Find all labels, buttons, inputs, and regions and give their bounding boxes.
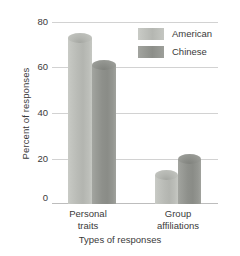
bar-group-affiliations-chinese (178, 154, 201, 204)
x-tick-line1: Personal (69, 208, 107, 219)
bar-chart: Percent of responses 80 60 40 20 0 (0, 0, 240, 256)
legend-swatch-icon-american (138, 28, 164, 40)
bar-body (68, 38, 92, 204)
legend-item-chinese: Chinese (138, 44, 212, 59)
y-tick-label-80: 80 (18, 17, 48, 27)
legend-label-american: American (172, 28, 212, 39)
x-tick-line1: Group (165, 208, 191, 219)
bar-personal-traits-chinese (92, 60, 116, 204)
y-tick-label-60: 60 (18, 62, 48, 72)
x-tick-label-personal-traits: Personal traits (58, 208, 118, 231)
y-tick-label-40: 40 (18, 108, 48, 118)
bar-body (178, 159, 201, 204)
legend: American Chinese (138, 26, 212, 62)
legend-label-chinese: Chinese (172, 46, 207, 57)
bar-body (92, 65, 116, 204)
bar-cap (68, 33, 92, 43)
bar-cap (92, 60, 116, 70)
x-tick-line2: traits (58, 220, 118, 232)
y-tick-label-0: 0 (18, 193, 48, 203)
x-tick-label-group-affiliations: Group affiliations (145, 208, 211, 231)
y-tick-label-20: 20 (18, 154, 48, 164)
bar-cap (155, 170, 178, 180)
x-tick-line2: affiliations (145, 220, 211, 232)
legend-item-american: American (138, 26, 212, 41)
bar-personal-traits-american (68, 33, 92, 204)
bar-group-affiliations-american (155, 170, 178, 204)
bar-cap (178, 154, 201, 164)
x-axis-title: Types of responses (0, 234, 240, 245)
legend-swatch-icon-chinese (138, 46, 164, 58)
